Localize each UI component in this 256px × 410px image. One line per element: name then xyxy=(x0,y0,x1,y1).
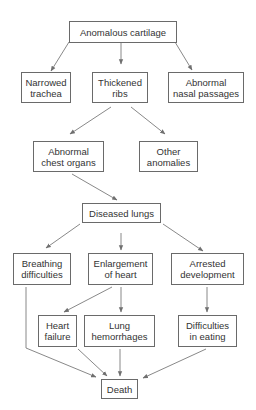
arrow-ribs-to-other xyxy=(131,107,165,134)
node-label: difficulties xyxy=(21,269,63,280)
node-abnormal-chest-organs: Abnormal chest organs xyxy=(33,141,104,172)
arrow-ribs-to-chest xyxy=(70,107,111,134)
node-difficulties-in-eating: Difficulties in eating xyxy=(178,315,237,347)
arrow-chest-to-lungs xyxy=(72,174,117,200)
node-anomalous-cartilage: Anomalous cartilage xyxy=(69,21,177,43)
node-label: nasal passages xyxy=(173,88,239,99)
node-death: Death xyxy=(101,379,138,399)
node-label: Thickened xyxy=(98,77,142,88)
node-lung-hemorrhages: Lung hemorrhages xyxy=(84,315,155,347)
node-arrested-development: Arrested development xyxy=(171,253,244,285)
node-narrowed-trachea: Narrowed trachea xyxy=(21,72,71,103)
arrow-enlargement-to-heart-failure xyxy=(64,287,112,312)
node-diseased-lungs: Diseased lungs xyxy=(82,203,161,223)
arrow-heart-failure-to-death xyxy=(78,349,107,376)
node-label: Enlargement xyxy=(94,258,148,269)
flowchart-canvas: Anomalous cartilage Narrowed trachea Thi… xyxy=(0,0,256,410)
node-label: in eating xyxy=(190,331,226,342)
node-label: ribs xyxy=(112,88,127,99)
node-label: anomalies xyxy=(147,157,190,168)
node-label: Anomalous cartilage xyxy=(80,27,166,38)
node-label: trachea xyxy=(30,88,62,99)
node-label: Narrowed xyxy=(25,77,66,88)
node-label: Difficulties xyxy=(186,320,229,331)
node-label: of heart xyxy=(104,269,136,280)
node-label: Arrested xyxy=(190,258,226,269)
node-label: Diseased lungs xyxy=(89,208,154,219)
node-abnormal-nasal-passages: Abnormal nasal passages xyxy=(168,72,244,103)
arrow-breathing-to-death-diag xyxy=(26,348,96,377)
node-label: Lung xyxy=(109,320,130,331)
arrow-lungs-to-arrested xyxy=(163,224,203,251)
node-enlargement-of-heart: Enlargement of heart xyxy=(88,253,153,285)
node-label: Death xyxy=(107,384,132,395)
node-label: failure xyxy=(45,331,71,342)
node-label: Breathing xyxy=(22,258,63,269)
node-other-anomalies: Other anomalies xyxy=(139,141,198,172)
node-heart-failure: Heart failure xyxy=(38,315,77,347)
node-label: Abnormal xyxy=(186,77,227,88)
arrow-cartilage-to-trachea xyxy=(51,42,69,71)
arrow-lungs-to-breathing xyxy=(46,224,80,248)
arrow-cartilage-to-nasal xyxy=(175,42,192,70)
node-thickened-ribs: Thickened ribs xyxy=(92,72,148,103)
node-label: Other xyxy=(157,146,181,157)
node-label: chest organs xyxy=(41,157,95,168)
arrow-eating-to-death xyxy=(143,349,206,378)
node-label: Abnormal xyxy=(48,146,89,157)
node-breathing-difficulties: Breathing difficulties xyxy=(13,253,71,285)
node-label: Heart xyxy=(46,320,69,331)
node-label: development xyxy=(180,269,234,280)
node-label: hemorrhages xyxy=(92,331,148,342)
